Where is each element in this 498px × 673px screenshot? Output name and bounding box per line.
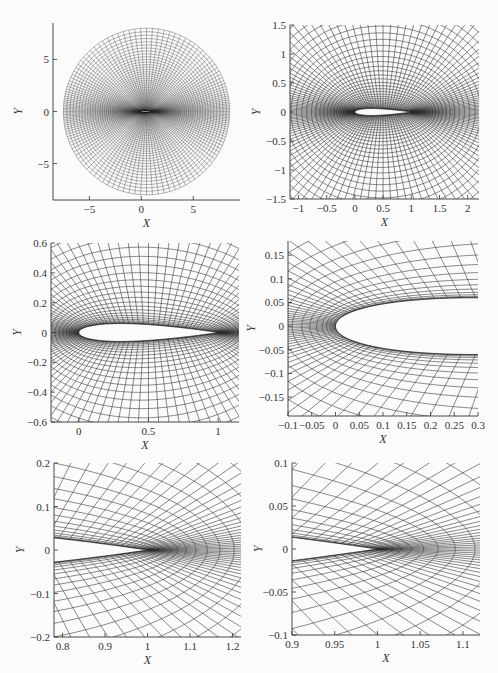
x-tick-label: 1 bbox=[145, 640, 151, 652]
mesh-radial-line bbox=[129, 112, 146, 193]
mesh-radial-line bbox=[135, 112, 146, 194]
y-tick-label: 0.2 bbox=[33, 297, 47, 309]
mesh-radial-line bbox=[407, 0, 498, 111]
x-tick-label: 0.25 bbox=[445, 419, 465, 431]
mesh-circumferential-line bbox=[226, 0, 498, 256]
y-tick-label: −0.6 bbox=[27, 416, 47, 428]
mesh-radial-line bbox=[376, 549, 498, 673]
mesh-radial-line bbox=[372, 550, 498, 673]
x-tick-label: −1 bbox=[293, 202, 305, 214]
x-tick-label: 0.9 bbox=[98, 640, 112, 652]
x-tick-label: 1 bbox=[375, 638, 381, 650]
x-tick-label: 2 bbox=[465, 202, 471, 214]
mesh-radial-line bbox=[411, 112, 498, 176]
mesh-panel-near-field: −1−0.500.511.52−1.5−1−0.500.511.5XY bbox=[249, 0, 498, 225]
x-axis-label: X bbox=[378, 432, 387, 446]
x-axis-label: X bbox=[381, 651, 390, 665]
x-tick-label: 1.5 bbox=[433, 202, 447, 214]
x-tick-label: 5 bbox=[191, 203, 197, 215]
y-tick-label: 0 bbox=[42, 327, 48, 339]
mesh-plot-near-field: −1−0.500.511.52−1.5−1−0.500.511.5XY bbox=[249, 0, 498, 225]
x-tick-label: 0 bbox=[333, 419, 339, 431]
x-tick-label: 0.2 bbox=[424, 419, 438, 431]
y-axis-label: Y bbox=[13, 545, 27, 553]
mesh-radial-line bbox=[129, 30, 146, 111]
mesh-lines bbox=[63, 28, 229, 195]
x-tick-label: 0 bbox=[76, 425, 82, 437]
y-tick-label: −0.5 bbox=[266, 135, 286, 147]
y-tick-label: 0.6 bbox=[33, 237, 47, 249]
y-tick-label: −0.1 bbox=[264, 367, 284, 379]
x-tick-label: 1.2 bbox=[226, 640, 240, 652]
mesh-radial-line bbox=[411, 48, 498, 112]
y-tick-label: −0.05 bbox=[259, 344, 285, 356]
x-tick-label: −5 bbox=[84, 203, 96, 215]
y-tick-label: −1.5 bbox=[266, 193, 286, 205]
y-tick-label: −0.2 bbox=[30, 631, 50, 643]
mesh-radial-line bbox=[149, 38, 186, 111]
x-tick-label: 0.15 bbox=[397, 419, 417, 431]
x-tick-label: 1.05 bbox=[411, 638, 431, 650]
mesh-plot-leading-edge: −0.1−0.0500.050.10.150.20.250.3−0.15−0.1… bbox=[249, 225, 498, 450]
x-tick-label: 0.5 bbox=[376, 202, 390, 214]
mesh-panel-trailing-edge-closeup: 0.90.9511.051.1−0.1−0.0500.050.1XY bbox=[249, 450, 498, 673]
mesh-panel-trailing-edge: 0.80.911.11.2−0.2−0.100.10.2XY bbox=[0, 450, 249, 673]
y-axis-label: Y bbox=[251, 544, 265, 552]
mesh-plot-full-domain: −505−505XY bbox=[0, 0, 249, 225]
airfoil-body bbox=[336, 298, 498, 355]
y-tick-label: 0.1 bbox=[270, 273, 284, 285]
x-tick-label: −0.1 bbox=[278, 419, 298, 431]
x-tick-label: 0.8 bbox=[56, 640, 70, 652]
y-tick-label: 1.5 bbox=[272, 19, 286, 31]
y-tick-label: 0 bbox=[45, 544, 51, 556]
y-axis-label: Y bbox=[249, 107, 263, 115]
mesh-radial-line bbox=[409, 0, 498, 112]
mesh-plot-airfoil-surface: 00.51−0.6−0.4−0.200.20.40.6XY bbox=[0, 225, 249, 450]
mesh-radial-line bbox=[398, 0, 498, 110]
x-tick-label: 1 bbox=[215, 425, 221, 437]
y-tick-label: −0.1 bbox=[268, 629, 288, 641]
y-tick-label: 0.15 bbox=[265, 249, 285, 261]
y-tick-label: −0.05 bbox=[263, 586, 289, 598]
mesh-radial-line bbox=[373, 550, 498, 673]
mesh-panel-airfoil-surface: 00.51−0.6−0.4−0.200.20.40.6XY bbox=[0, 225, 249, 450]
y-tick-label: −0.4 bbox=[27, 386, 47, 398]
y-tick-label: 0 bbox=[279, 320, 285, 332]
x-tick-label: −0.5 bbox=[317, 202, 337, 214]
x-tick-label: 0.5 bbox=[142, 425, 156, 437]
x-tick-label: 1.1 bbox=[183, 640, 197, 652]
y-tick-label: 5 bbox=[44, 53, 50, 65]
x-tick-label: 0.1 bbox=[376, 419, 390, 431]
x-tick-label: 0.95 bbox=[325, 638, 345, 650]
mesh-radial-line bbox=[313, 558, 498, 673]
x-tick-label: −0.05 bbox=[299, 419, 325, 431]
airfoil-body bbox=[141, 111, 151, 112]
mesh-radial-line bbox=[150, 50, 203, 111]
mesh-radial-line bbox=[410, 0, 498, 112]
y-tick-label: 0.1 bbox=[274, 457, 288, 469]
y-tick-label: 1 bbox=[281, 48, 287, 60]
x-axis-label: X bbox=[143, 653, 152, 667]
mesh-panel-full-domain: −505−505XY bbox=[0, 0, 249, 225]
x-tick-label: 1 bbox=[409, 202, 415, 214]
x-tick-label: 0.05 bbox=[350, 419, 370, 431]
y-tick-label: 0.05 bbox=[269, 500, 289, 512]
mesh-radial-line bbox=[135, 29, 146, 111]
y-tick-label: −0.2 bbox=[27, 356, 47, 368]
mesh-radial-line bbox=[150, 57, 209, 111]
y-axis-label: Y bbox=[11, 107, 25, 115]
mesh-plot-trailing-edge: 0.80.911.11.2−0.2−0.100.10.2XY bbox=[0, 450, 249, 673]
mesh-radial-line bbox=[410, 112, 498, 224]
mesh-radial-line bbox=[377, 549, 498, 673]
y-tick-label: 0.05 bbox=[265, 296, 285, 308]
y-tick-label: 0.1 bbox=[36, 501, 50, 513]
mesh-radial-line bbox=[240, 567, 498, 673]
mesh-radial-line bbox=[377, 549, 498, 673]
x-tick-label: 0 bbox=[139, 203, 145, 215]
mesh-radial-line bbox=[377, 549, 498, 673]
mesh-radial-line bbox=[357, 552, 498, 673]
y-axis-label: Y bbox=[10, 328, 24, 336]
y-tick-label: 0.4 bbox=[33, 267, 47, 279]
mesh-radial-line bbox=[150, 112, 209, 166]
mesh-plot-trailing-edge-closeup: 0.90.9511.051.1−0.1−0.0500.050.1XY bbox=[249, 450, 498, 673]
